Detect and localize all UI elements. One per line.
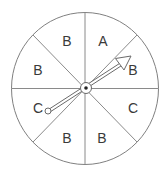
sector-label: A <box>98 33 108 49</box>
sector-label: B <box>33 62 42 78</box>
spinner-diagram: A B C B B C B B <box>0 0 166 177</box>
hub-dot-icon <box>84 86 88 90</box>
arrow-tail-icon <box>45 108 51 114</box>
sector-label: B <box>62 33 71 49</box>
sector-label: B <box>62 130 71 146</box>
sector-label: C <box>33 100 43 116</box>
sector-label: B <box>128 62 137 78</box>
sector-label: C <box>128 100 138 116</box>
sector-label: B <box>97 130 106 146</box>
